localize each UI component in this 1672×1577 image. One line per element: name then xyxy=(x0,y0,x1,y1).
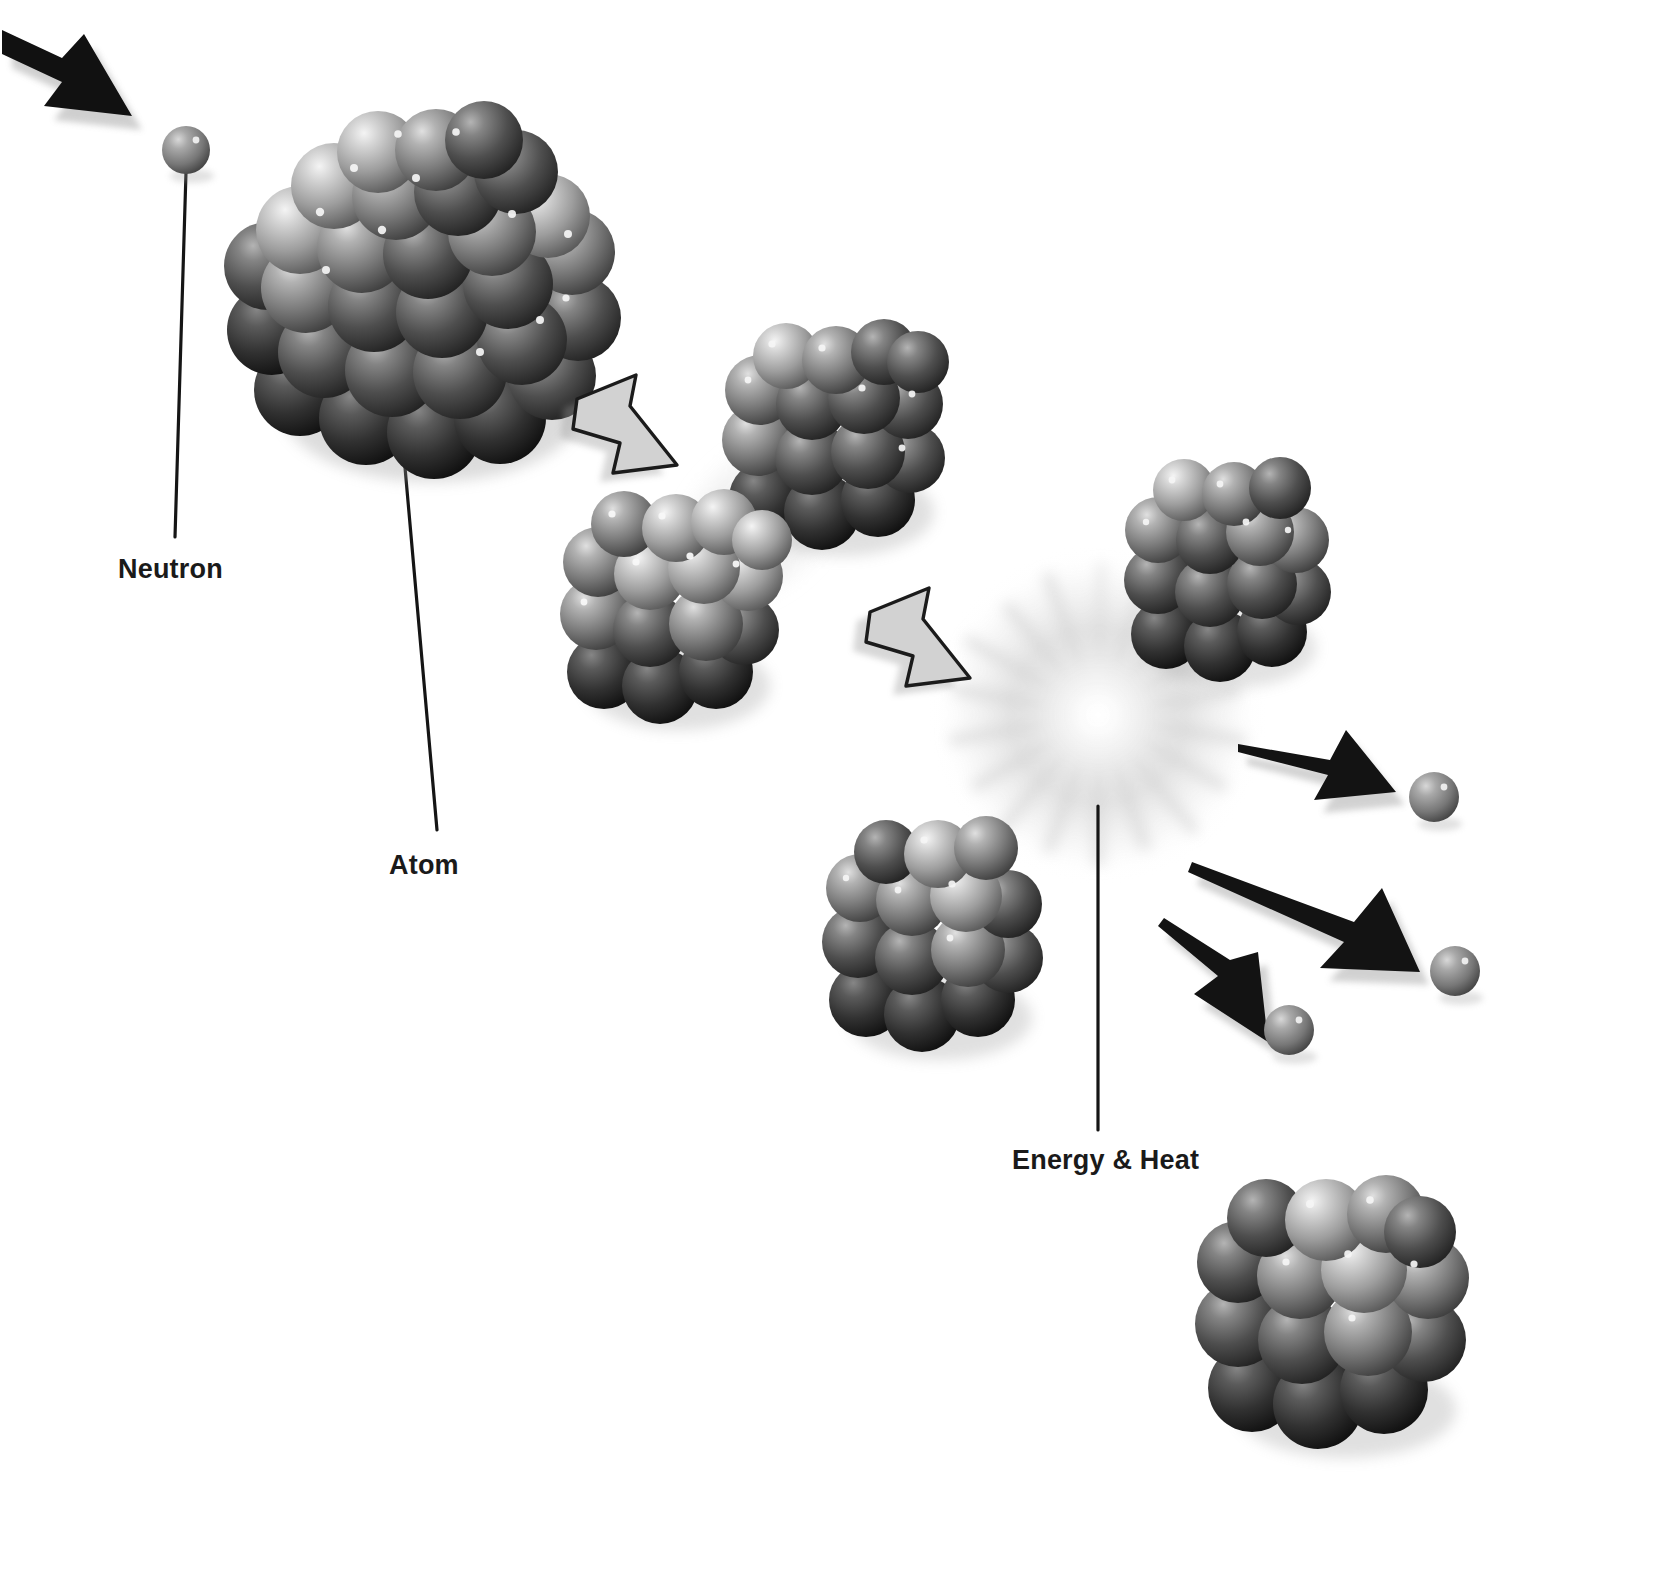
incoming-neutron xyxy=(162,126,214,183)
atom-intact-large xyxy=(224,101,621,482)
atom-product-lower-left xyxy=(822,816,1043,1060)
leader-line-neutron xyxy=(175,172,186,537)
emitted-neutron-2 xyxy=(1430,946,1483,1005)
emitted-neutron-3 xyxy=(1264,1005,1317,1064)
fission-diagram-canvas: Neutron Atom Energy & Heat xyxy=(0,0,1672,1577)
emitted-neutron-1 xyxy=(1409,772,1462,831)
label-atom: Atom xyxy=(389,850,459,881)
atom-product-right xyxy=(1124,457,1331,688)
fission-scene-svg xyxy=(0,0,1672,1577)
atom-splitting-lower xyxy=(560,489,792,730)
atom-product-bottom-right xyxy=(1195,1175,1469,1458)
label-neutron: Neutron xyxy=(118,554,223,585)
label-energy-heat: Energy & Heat xyxy=(1012,1145,1199,1176)
incoming-neutron-arrow xyxy=(2,30,142,130)
leader-line-atom xyxy=(404,456,437,830)
emitted-arrow-3 xyxy=(1158,918,1277,1055)
